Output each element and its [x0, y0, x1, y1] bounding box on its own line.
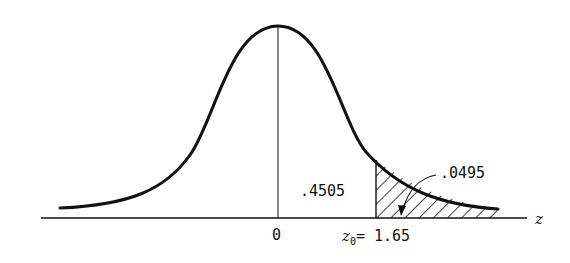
axis-label: z: [535, 212, 543, 227]
z0-var: z: [342, 227, 350, 245]
normal-curve-figure: [0, 0, 570, 263]
bell-curve: [60, 26, 498, 209]
z0-label: z0= 1.65: [342, 229, 410, 247]
mean-label: 0: [272, 228, 281, 243]
z0-value: = 1.65: [356, 227, 410, 245]
center-area-label: .4505: [300, 184, 345, 199]
tail-area-shading: [376, 150, 501, 220]
tail-area-label: .0495: [440, 166, 485, 181]
